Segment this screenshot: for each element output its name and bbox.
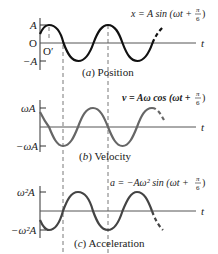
label-t: t (201, 37, 205, 49)
equation-velocity: v = Aω cos (ωt + (122, 92, 191, 104)
eq-frac-num: π (196, 90, 200, 98)
label-t: t (201, 205, 205, 217)
eq-frac-den: 6 (196, 99, 200, 107)
acceleration-curve-dashed (152, 211, 163, 230)
guide-lines (49, 25, 108, 254)
equation-position: x = A sin (ωt + (130, 8, 192, 20)
label-neg-omega-a: −ωA (16, 140, 38, 152)
panel-velocity: ωA −ωA t v = Aω cos (ωt + π 6 ) (b) Velo… (16, 90, 205, 163)
label-omega-a: ωA (21, 102, 36, 114)
label-a-max: A (29, 19, 37, 31)
shm-diagram: A O −A O′ t x = A sin (ωt + π 6 ) (a) Po… (0, 0, 218, 254)
label-origin: O (29, 37, 37, 49)
eq-close: ) (202, 92, 205, 104)
label-neg-omega2-a: −ω²A (11, 224, 36, 236)
label-t: t (201, 121, 205, 133)
caption-acceleration: (c) Acceleration (74, 237, 145, 250)
panel-position: A O −A O′ t x = A sin (ωt + π 6 ) (a) Po… (23, 6, 205, 79)
caption-velocity: (b) Velocity (79, 150, 132, 163)
eq-frac-den: 6 (196, 15, 200, 23)
label-origin-shift: O′ (43, 45, 53, 57)
eq-frac-den: 6 (196, 184, 200, 192)
label-a-min: −A (23, 55, 37, 67)
caption-position: (a) Position (82, 66, 134, 79)
label-omega2-a: ω²A (17, 186, 35, 198)
equation-acceleration: a = −Aω² sin (ωt + (110, 177, 189, 189)
eq-close: ) (202, 177, 205, 189)
position-curve-dashed (153, 27, 164, 43)
velocity-curve-dashed (152, 108, 164, 120)
eq-frac-num: π (196, 175, 200, 183)
eq-close: ) (202, 8, 205, 20)
eq-frac-num: π (196, 6, 200, 14)
